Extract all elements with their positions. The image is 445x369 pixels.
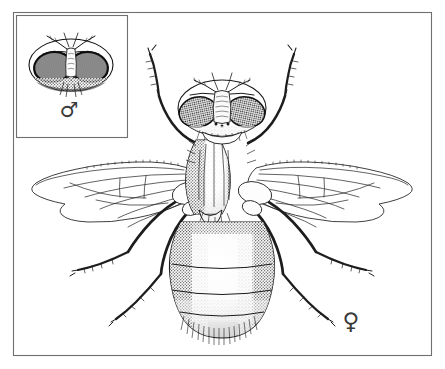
female-symbol: ♀ — [343, 308, 360, 334]
fly-illustration-svg: ♀ — [0, 0, 445, 369]
male-head-inset: ♂ — [17, 16, 128, 138]
illustration-plate: ♀ — [0, 0, 445, 369]
male-symbol: ♂ — [60, 98, 79, 122]
inset-frons — [66, 48, 77, 77]
